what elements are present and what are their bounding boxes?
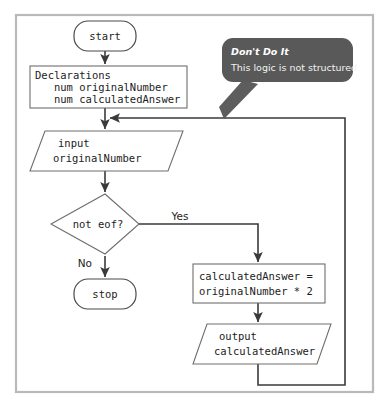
node-declarations-line-3: num calculatedAnswer [35,93,180,105]
node-output-line-2: calculatedAnswer [214,345,315,357]
edge-label-no: No [78,257,92,269]
callout-title: Don't Do It [231,46,289,57]
node-decision-label: not eof? [73,218,124,230]
flowchart-diagram: start Declarations num originalNumber nu… [0,0,389,411]
node-output-line-1: output [219,330,257,342]
node-calculate-line-1: calculatedAnswer = [199,270,313,282]
node-start-label: start [89,30,121,42]
callout-bubble [222,38,353,82]
node-declarations-line-2: num originalNumber [35,81,168,93]
edge-label-yes: Yes [171,210,189,222]
flowchart-canvas: start Declarations num originalNumber nu… [0,0,389,411]
callout-arrow-icon [219,80,258,119]
callout-body: This logic is not structured. [230,62,360,73]
node-output [193,324,331,364]
edge-decision-yes-to-calculate [139,224,258,262]
node-stop-label: stop [92,288,117,300]
node-input-line-1: input [58,137,90,149]
node-input [30,131,183,171]
node-input-line-2: originalNumber [53,152,142,164]
node-calculate-line-2: originalNumber * 2 [199,285,313,297]
node-declarations-line-1: Declarations [35,69,111,81]
